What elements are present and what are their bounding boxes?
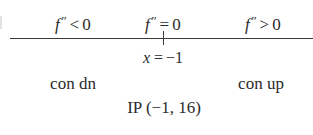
relation-symbol: =	[159, 15, 169, 34]
comparison-value: 0	[172, 15, 181, 34]
equals-symbol: =	[154, 49, 163, 66]
concave-up-label: con up	[238, 75, 284, 92]
scan-edge-artifact	[0, 16, 2, 29]
tick-value: −1	[166, 49, 183, 66]
second-derivative-sign-chart: f″<0 f″=0 f″>0 x=−1 con dn con up IP (−1…	[0, 0, 313, 135]
comparison-value: 0	[272, 15, 281, 34]
inflection-point-label: IP (−1, 16)	[127, 99, 201, 116]
second-derivative-positive-label: f″>0	[245, 14, 281, 33]
variable-symbol: x	[143, 49, 150, 66]
relation-symbol: >	[259, 15, 269, 34]
double-prime-icon: ″	[250, 13, 255, 28]
tick-value-label: x=−1	[143, 50, 183, 66]
number-line-axis	[10, 38, 313, 39]
second-derivative-negative-label: f″<0	[55, 14, 91, 33]
double-prime-icon: ″	[150, 13, 155, 28]
relation-symbol: <	[69, 15, 79, 34]
double-prime-icon: ″	[60, 13, 65, 28]
axis-tick-mark	[163, 31, 164, 45]
concave-down-label: con dn	[50, 75, 96, 92]
comparison-value: 0	[82, 15, 91, 34]
